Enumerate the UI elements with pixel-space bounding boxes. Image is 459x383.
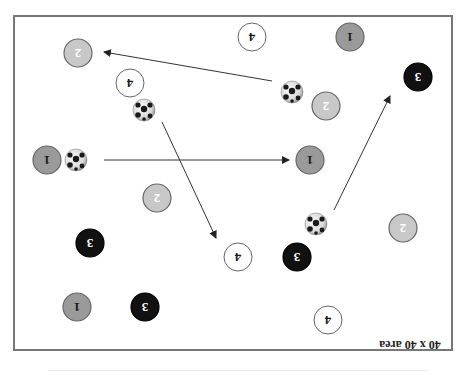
- player-marker-team-3: 3: [131, 293, 159, 321]
- player-marker-team-1: 1: [33, 146, 61, 174]
- football-icon: [133, 99, 155, 121]
- player-number: 2: [400, 221, 407, 236]
- player-marker-team-3: 3: [76, 229, 104, 257]
- player-number: 1: [74, 300, 81, 315]
- football-icon: [65, 149, 87, 171]
- player-marker-team-2: 2: [143, 184, 171, 212]
- player-number: 3: [141, 300, 148, 315]
- player-number: 2: [75, 46, 82, 61]
- player-number: 4: [234, 250, 241, 265]
- player-marker-team-2: 2: [64, 39, 92, 67]
- player-marker-team-2: 2: [312, 92, 340, 120]
- player-number: 1: [307, 153, 314, 168]
- player-marker-team-1: 1: [336, 23, 364, 51]
- bottom-divider: [48, 370, 428, 371]
- player-number: 2: [154, 191, 161, 206]
- player-number: 4: [324, 313, 331, 328]
- player-marker-team-3: 3: [404, 63, 432, 91]
- player-number: 4: [248, 30, 255, 45]
- player-number: 3: [293, 250, 300, 265]
- player-marker-team-1: 1: [63, 293, 91, 321]
- player-number: 4: [126, 76, 133, 91]
- player-marker-team-1: 1: [296, 146, 324, 174]
- football-icon: [305, 213, 327, 235]
- training-drill-diagram: 2441321123432134 40 x 40 area: [0, 0, 459, 383]
- player-marker-team-2: 2: [389, 214, 417, 242]
- player-number: 2: [323, 99, 330, 114]
- player-marker-team-4: 4: [314, 306, 342, 334]
- player-marker-team-4: 4: [224, 243, 252, 271]
- player-marker-team-4: 4: [116, 69, 144, 97]
- player-number: 3: [414, 70, 421, 85]
- player-number: 1: [347, 30, 354, 45]
- football-icon: [281, 81, 303, 103]
- player-number: 3: [86, 236, 93, 251]
- player-number: 1: [44, 153, 51, 168]
- player-marker-team-3: 3: [283, 243, 311, 271]
- player-marker-team-4: 4: [238, 23, 266, 51]
- area-size-label: 40 x 40 area: [379, 338, 440, 352]
